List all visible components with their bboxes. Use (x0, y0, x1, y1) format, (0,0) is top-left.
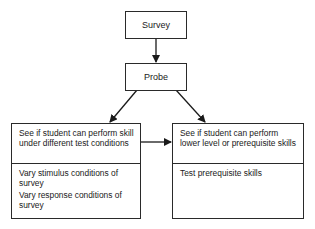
right-node-header: See if student can perform lower level o… (173, 124, 303, 164)
left-item: Vary stimulus conditions of survey (19, 168, 134, 188)
probe-node: Probe (125, 63, 187, 91)
left-item: Vary response conditions of survey (19, 190, 134, 210)
left-node: See if student can perform skill under d… (11, 123, 141, 219)
arrow-probe-to-right (176, 90, 205, 122)
right-node: See if student can perform lower level o… (172, 123, 304, 219)
right-header-text: See if student can perform lower level o… (180, 128, 296, 148)
right-node-body: Test prerequisite skills (173, 164, 303, 182)
arrow-probe-to-left (110, 90, 137, 122)
left-node-header: See if student can perform skill under d… (12, 124, 140, 164)
right-item: Test prerequisite skills (180, 168, 297, 178)
probe-label: Probe (144, 72, 168, 82)
left-node-body: Vary stimulus conditions of survey Vary … (12, 164, 140, 214)
survey-node: Survey (125, 11, 187, 39)
left-header-text: See if student can perform skill under d… (19, 128, 134, 148)
survey-label: Survey (142, 20, 170, 30)
